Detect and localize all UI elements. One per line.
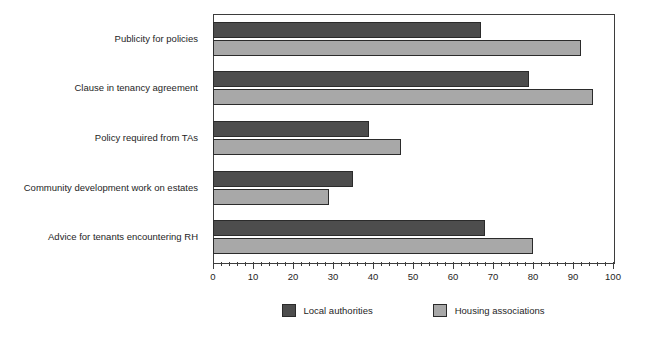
bar-local-authorities bbox=[213, 220, 485, 236]
x-axis-minor-tick bbox=[261, 262, 262, 266]
x-axis-minor-tick bbox=[357, 262, 358, 266]
x-axis-major-tick bbox=[573, 262, 574, 269]
legend-entry-housing-associations: Housing associations bbox=[433, 304, 545, 317]
x-axis-minor-tick bbox=[397, 262, 398, 266]
bar-housing-associations bbox=[213, 189, 329, 205]
x-axis-major-tick bbox=[613, 262, 614, 269]
x-axis-tick-label: 50 bbox=[408, 271, 419, 282]
bar-housing-associations bbox=[213, 89, 593, 105]
legend-label-local-authorities: Local authorities bbox=[304, 305, 373, 316]
x-axis-major-tick bbox=[493, 262, 494, 269]
x-axis-minor-tick bbox=[429, 262, 430, 266]
x-axis-minor-tick bbox=[365, 262, 366, 266]
x-axis-tick-label: 100 bbox=[605, 271, 621, 282]
x-axis-tick-label: 60 bbox=[448, 271, 459, 282]
x-axis-minor-tick bbox=[525, 262, 526, 266]
x-axis-major-tick bbox=[293, 262, 294, 269]
bar-local-authorities bbox=[213, 171, 353, 187]
x-axis-minor-tick bbox=[597, 262, 598, 266]
category-label: Advice for tenants encountering RH bbox=[0, 231, 198, 242]
category-axis-labels: Publicity for policiesClause in tenancy … bbox=[0, 14, 206, 262]
x-axis-minor-tick bbox=[557, 262, 558, 266]
bar-local-authorities bbox=[213, 121, 369, 137]
x-axis-minor-tick bbox=[509, 262, 510, 266]
x-axis-minor-tick bbox=[381, 262, 382, 266]
x-axis-major-tick bbox=[413, 262, 414, 269]
x-axis-minor-tick bbox=[589, 262, 590, 266]
plot-area bbox=[213, 14, 613, 262]
x-axis-minor-tick bbox=[581, 262, 582, 266]
category-label: Policy required from TAs bbox=[0, 132, 198, 143]
x-axis-minor-tick bbox=[445, 262, 446, 266]
bar-housing-associations bbox=[213, 139, 401, 155]
x-axis-minor-tick bbox=[517, 262, 518, 266]
x-axis-major-tick bbox=[453, 262, 454, 269]
x-axis-tick-label: 20 bbox=[288, 271, 299, 282]
x-axis-minor-tick bbox=[341, 262, 342, 266]
x-axis-minor-tick bbox=[549, 262, 550, 266]
x-axis-minor-tick bbox=[301, 262, 302, 266]
x-axis-minor-tick bbox=[437, 262, 438, 266]
category-label: Community development work on estates bbox=[0, 182, 198, 193]
x-axis-tick-label: 30 bbox=[328, 271, 339, 282]
x-axis-minor-tick bbox=[501, 262, 502, 266]
x-axis-tick-label: 70 bbox=[488, 271, 499, 282]
x-axis-tick-label: 40 bbox=[368, 271, 379, 282]
x-axis: 0102030405060708090100 bbox=[213, 262, 613, 292]
x-axis-minor-tick bbox=[405, 262, 406, 266]
x-axis-minor-tick bbox=[285, 262, 286, 266]
x-axis-tick-label: 0 bbox=[210, 271, 215, 282]
x-axis-major-tick bbox=[333, 262, 334, 269]
x-axis-minor-tick bbox=[349, 262, 350, 266]
x-axis-minor-tick bbox=[229, 262, 230, 266]
x-axis-minor-tick bbox=[221, 262, 222, 266]
x-axis-minor-tick bbox=[237, 262, 238, 266]
x-axis-major-tick bbox=[533, 262, 534, 269]
x-axis-minor-tick bbox=[309, 262, 310, 266]
x-axis-minor-tick bbox=[541, 262, 542, 266]
x-axis-major-tick bbox=[373, 262, 374, 269]
legend-swatch-housing-associations bbox=[433, 304, 447, 317]
x-axis-minor-tick bbox=[605, 262, 606, 266]
x-axis-minor-tick bbox=[565, 262, 566, 266]
x-axis-minor-tick bbox=[269, 262, 270, 266]
x-axis-minor-tick bbox=[477, 262, 478, 266]
x-axis-major-tick bbox=[253, 262, 254, 269]
legend-swatch-local-authorities bbox=[282, 304, 296, 317]
chart-legend: Local authorities Housing associations bbox=[213, 300, 613, 320]
category-label: Clause in tenancy agreement bbox=[0, 82, 198, 93]
x-axis-tick-label: 80 bbox=[528, 271, 539, 282]
legend-entry-local-authorities: Local authorities bbox=[282, 304, 373, 317]
bar-local-authorities bbox=[213, 71, 529, 87]
legend-label-housing-associations: Housing associations bbox=[455, 305, 545, 316]
bar-housing-associations bbox=[213, 40, 581, 56]
x-axis-minor-tick bbox=[389, 262, 390, 266]
x-axis-minor-tick bbox=[277, 262, 278, 266]
bar-local-authorities bbox=[213, 22, 481, 38]
x-axis-minor-tick bbox=[461, 262, 462, 266]
category-label: Publicity for policies bbox=[0, 33, 198, 44]
bar-housing-associations bbox=[213, 238, 533, 254]
x-axis-minor-tick bbox=[317, 262, 318, 266]
x-axis-minor-tick bbox=[325, 262, 326, 266]
x-axis-minor-tick bbox=[469, 262, 470, 266]
x-axis-minor-tick bbox=[485, 262, 486, 266]
x-axis-minor-tick bbox=[245, 262, 246, 266]
x-axis-minor-tick bbox=[421, 262, 422, 266]
x-axis-tick-label: 90 bbox=[568, 271, 579, 282]
x-axis-major-tick bbox=[213, 262, 214, 269]
x-axis-tick-label: 10 bbox=[248, 271, 259, 282]
bar-chart: Publicity for policiesClause in tenancy … bbox=[0, 0, 663, 347]
